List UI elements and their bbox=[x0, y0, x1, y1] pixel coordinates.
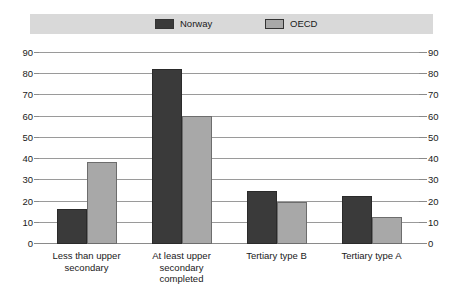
bar-group-0 bbox=[57, 53, 117, 244]
x-axis-label-2: Tertiary type B bbox=[222, 250, 332, 262]
y-axis-left: 9080706050403020100 bbox=[8, 53, 33, 244]
legend-label-oecd: OECD bbox=[290, 19, 317, 29]
y-tick-label-left-0: 0 bbox=[28, 239, 33, 249]
x-axis-label-0: Less than uppersecondary bbox=[32, 250, 142, 273]
y-tick-mark-right-50 bbox=[418, 137, 427, 138]
y-tick-mark-right-60 bbox=[418, 116, 427, 117]
x-axis-label-line: completed bbox=[127, 273, 237, 285]
y-tick-label-left-80: 80 bbox=[22, 69, 33, 79]
bar-oecd-1[interactable] bbox=[182, 116, 212, 244]
y-tick-label-left-50: 50 bbox=[22, 133, 33, 143]
bar-norway-0[interactable] bbox=[57, 209, 87, 244]
bar-group-1 bbox=[152, 53, 212, 244]
legend-label-norway: Norway bbox=[180, 19, 212, 29]
y-tick-label-right-0: 0 bbox=[428, 239, 433, 249]
x-axis-label-line: Tertiary type A bbox=[317, 250, 427, 262]
plot-area bbox=[39, 53, 419, 244]
bar-oecd-0[interactable] bbox=[87, 162, 117, 244]
y-tick-label-left-90: 90 bbox=[22, 48, 33, 58]
bar-norway-2[interactable] bbox=[247, 191, 277, 244]
legend-swatch-icon-norway bbox=[155, 19, 174, 29]
y-tick-mark-right-20 bbox=[418, 201, 427, 202]
y-tick-label-right-50: 50 bbox=[428, 133, 439, 143]
y-tick-label-left-20: 20 bbox=[22, 197, 33, 207]
x-axis-label-line: Tertiary type B bbox=[222, 250, 332, 262]
x-axis-label-line: secondary bbox=[32, 262, 142, 274]
x-axis-labels: Less than uppersecondaryAt least upperse… bbox=[39, 250, 419, 296]
y-axis-right: 9080706050403020100 bbox=[428, 53, 456, 244]
y-tick-label-left-70: 70 bbox=[22, 90, 33, 100]
y-tick-label-right-80: 80 bbox=[428, 69, 439, 79]
y-tick-label-right-70: 70 bbox=[428, 90, 439, 100]
y-tick-mark-right-10 bbox=[418, 222, 427, 223]
chart-legend: Norway OECD bbox=[30, 14, 433, 34]
y-tick-label-right-60: 60 bbox=[428, 112, 439, 122]
bar-oecd-2[interactable] bbox=[277, 202, 307, 244]
y-tick-mark-right-70 bbox=[418, 94, 427, 95]
y-tick-label-right-90: 90 bbox=[428, 48, 439, 58]
x-axis-label-line: At least upper bbox=[127, 250, 237, 262]
y-tick-label-left-40: 40 bbox=[22, 154, 33, 164]
legend-swatch-icon-oecd bbox=[265, 19, 284, 29]
y-tick-mark-right-40 bbox=[418, 158, 427, 159]
legend-item-norway[interactable]: Norway bbox=[155, 14, 212, 34]
bar-group-3 bbox=[342, 53, 402, 244]
x-axis-label-line: Less than upper bbox=[32, 250, 142, 262]
y-tick-label-right-30: 30 bbox=[428, 175, 439, 185]
x-axis-label-1: At least uppersecondarycompleted bbox=[127, 250, 237, 285]
y-tick-label-left-60: 60 bbox=[22, 112, 33, 122]
bar-oecd-3[interactable] bbox=[372, 217, 402, 244]
y-tick-mark-right-80 bbox=[418, 73, 427, 74]
bar-norway-1[interactable] bbox=[152, 69, 182, 244]
y-tick-mark-right-30 bbox=[418, 179, 427, 180]
y-tick-label-right-40: 40 bbox=[428, 154, 439, 164]
y-tick-label-left-30: 30 bbox=[22, 175, 33, 185]
bar-norway-3[interactable] bbox=[342, 196, 372, 244]
y-tick-label-right-20: 20 bbox=[428, 197, 439, 207]
y-tick-label-right-10: 10 bbox=[428, 218, 439, 228]
x-axis-label-line: secondary bbox=[127, 262, 237, 274]
x-axis-label-3: Tertiary type A bbox=[317, 250, 427, 262]
y-tick-label-left-10: 10 bbox=[22, 218, 33, 228]
bar-chart: Norway OECD 9080706050403020100 90807060… bbox=[0, 0, 463, 298]
y-tick-mark-right-0 bbox=[418, 243, 427, 244]
y-tick-mark-right-90 bbox=[418, 52, 427, 53]
legend-item-oecd[interactable]: OECD bbox=[265, 14, 317, 34]
bar-group-2 bbox=[247, 53, 307, 244]
